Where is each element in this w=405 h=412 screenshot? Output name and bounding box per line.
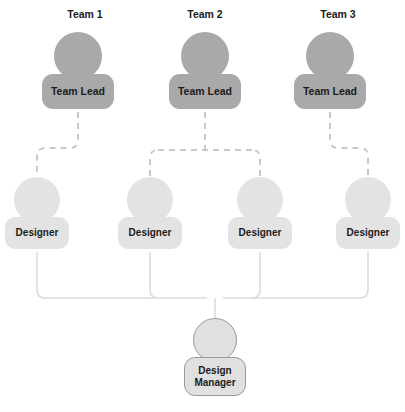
team-title-2: Team 2	[187, 8, 222, 20]
node-label: Design Manager	[184, 357, 246, 396]
person-head-icon	[54, 32, 102, 80]
dashed-connectors	[37, 112, 368, 176]
connector-designer2-bus	[150, 252, 158, 298]
node-label: Team Lead	[42, 74, 114, 109]
node-label: Team Lead	[294, 74, 366, 109]
person-head-icon	[181, 32, 229, 80]
solid-connectors	[37, 252, 368, 318]
org-chart-diagram: Team 1 Team 2 Team 3 Team Lead Team Lead…	[0, 0, 405, 412]
person-head-icon	[193, 318, 237, 362]
node-label-line-1: Design	[198, 365, 231, 377]
node-label: Designer	[228, 217, 292, 249]
node-label-line-2: Manager	[194, 377, 235, 389]
connector-designer4-bus	[223, 252, 368, 298]
person-head-icon	[306, 32, 354, 80]
team-title-1: Team 1	[67, 8, 102, 20]
team-title-3: Team 3	[320, 8, 355, 20]
node-label: Designer	[118, 217, 182, 249]
node-label: Designer	[5, 217, 69, 249]
node-label: Designer	[336, 217, 400, 249]
node-label: Team Lead	[169, 74, 241, 109]
connector-lead1-designer1	[37, 112, 78, 176]
connector-designer1-bus	[37, 252, 207, 298]
connector-lead2-designer2	[150, 150, 158, 176]
connector-lead3-designer4	[330, 112, 368, 176]
connector-designer3-bus	[252, 252, 260, 298]
connector-lead2-designer3	[252, 150, 260, 176]
